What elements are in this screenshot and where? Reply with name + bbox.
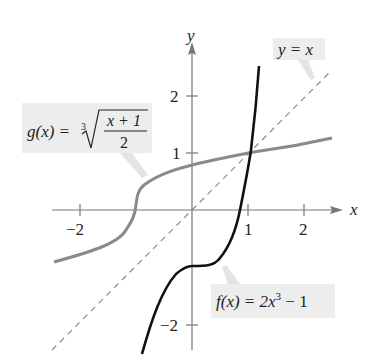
tick-x-2: 2 [299,220,308,239]
g-label-lhs: g(x) = [27,122,70,141]
g-denominator: 2 [120,134,128,151]
g-curve [54,138,332,262]
tick-y-neg2: −2 [160,316,178,335]
yx-label: y = x [276,40,314,59]
g-numerator: x + 1 [106,112,141,129]
f-label: f(x) = 2x3 − 1 [216,290,308,311]
y-axis-label: y [185,26,195,45]
tick-x-1: 1 [244,220,253,239]
tick-y-1: 1 [172,144,181,163]
x-axis-label: x [349,200,358,219]
f-leader [222,265,240,284]
g-root-index: 3 [81,121,86,132]
yx-leader [298,60,315,80]
g-leader [120,153,148,178]
chart: x y −2 1 2 2 1 −2 g(x) = 3 x + 1 2 y = x… [0,0,379,362]
tick-x-neg2: −2 [66,220,84,239]
tick-y-2: 2 [170,87,179,106]
